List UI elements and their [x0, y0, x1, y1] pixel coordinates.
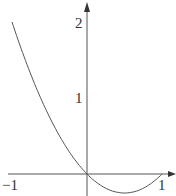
x-tick-label-neg1: −1: [2, 178, 18, 193]
y-tick-label-1: 1: [75, 91, 83, 106]
x-tick-label-1: 1: [158, 178, 166, 193]
plot-area: [0, 0, 176, 196]
x-axis-arrow-icon: [168, 171, 176, 177]
y-tick-label-2: 2: [75, 16, 83, 31]
y-axis-arrow-icon: [84, 2, 90, 12]
